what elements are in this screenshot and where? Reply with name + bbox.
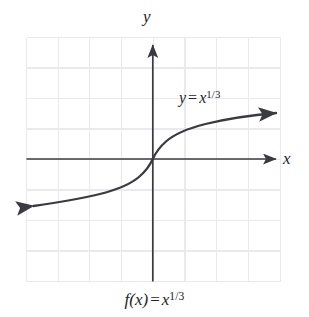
math-figure: y x y=x1/3 f(x)=x1/3 [0, 0, 309, 317]
caption-equals: = [148, 290, 162, 309]
figure-caption: f(x)=x1/3 [0, 291, 309, 308]
x-axis-label: x [283, 150, 291, 167]
curve-equation-equals: = [186, 89, 199, 106]
caption-exponent: 1/3 [169, 290, 184, 303]
caption-argument: (x) [129, 290, 148, 309]
graph-canvas [0, 0, 309, 317]
curve-equation-label: y=x1/3 [179, 90, 220, 106]
curve-equation-exponent: 1/3 [206, 88, 220, 100]
y-axis-label: y [143, 8, 151, 25]
curve-right-branch [153, 113, 276, 159]
curve-left-branch [34, 159, 153, 206]
